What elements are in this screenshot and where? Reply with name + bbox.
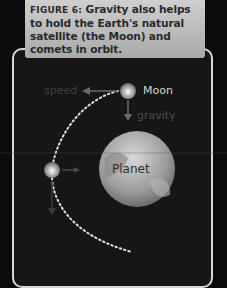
gravity-arrow-left-head-icon: [74, 167, 80, 173]
planet-label: Planet: [112, 162, 150, 176]
speed-label: speed: [44, 84, 77, 97]
gravity-label: gravity: [137, 109, 176, 122]
figure-label: FIGURE 6:: [30, 5, 82, 15]
speed-arrow-left-head-icon: [48, 208, 56, 215]
figure-caption: FIGURE 6: Gravity also helps to hold the…: [25, 0, 205, 58]
speed-arrow-head-icon: [82, 87, 90, 95]
moon-label: Moon: [143, 84, 173, 97]
moon-icon: [120, 83, 136, 99]
gravity-arrow-head-icon: [124, 114, 132, 121]
moon-left-icon: [44, 162, 60, 178]
